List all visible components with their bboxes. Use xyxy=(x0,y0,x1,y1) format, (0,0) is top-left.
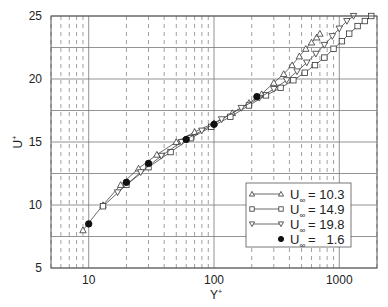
x-tick-label: 1000 xyxy=(326,273,353,287)
square-marker xyxy=(362,18,367,23)
y-tick-label: 5 xyxy=(35,261,42,275)
square-marker xyxy=(312,62,317,67)
chart-canvas: 101001000510152025 Y+ U+ U∞= 10.3U∞= 14.… xyxy=(0,0,388,307)
square-marker xyxy=(228,114,233,119)
filled-circle-marker xyxy=(211,121,217,127)
x-tick-label: 100 xyxy=(204,273,224,287)
chart-container: 101001000510152025 Y+ U+ U∞= 10.3U∞= 14.… xyxy=(0,0,388,307)
filled-circle-marker xyxy=(86,221,92,227)
filled-circle-marker xyxy=(145,160,151,166)
square-marker xyxy=(168,149,173,154)
x-tick-label: 10 xyxy=(82,273,96,287)
square-marker xyxy=(291,78,296,83)
series-line xyxy=(103,16,371,206)
filled-circle-marker xyxy=(123,179,129,185)
triangle-down-marker xyxy=(271,87,277,93)
square-marker xyxy=(346,31,351,36)
triangle-down-marker xyxy=(218,117,224,123)
y-axis-label: U+ xyxy=(11,136,25,149)
y-tick-label: 10 xyxy=(29,198,43,212)
square-marker xyxy=(302,70,307,75)
x-axis-label: Y+ xyxy=(210,288,222,302)
y-tick-label: 20 xyxy=(29,72,43,86)
filled-circle-marker xyxy=(278,236,283,241)
square-marker xyxy=(322,55,327,60)
square-marker xyxy=(100,204,105,209)
square-marker xyxy=(250,207,254,211)
square-marker xyxy=(339,38,344,43)
axis-labels: Y+ U+ xyxy=(11,136,222,302)
square-marker xyxy=(355,23,360,28)
y-tick-label: 15 xyxy=(29,135,43,149)
filled-circle-marker xyxy=(183,136,189,142)
y-tick-label: 25 xyxy=(29,9,43,23)
filled-circle-marker xyxy=(254,93,260,99)
series-square xyxy=(100,13,374,209)
legend: U∞= 10.3U∞= 14.9U∞= 19.8U∞= 1.6 xyxy=(246,183,351,250)
triangle-up-marker xyxy=(317,30,323,36)
square-marker xyxy=(279,207,283,211)
series-line xyxy=(118,16,354,192)
square-marker xyxy=(331,46,336,51)
